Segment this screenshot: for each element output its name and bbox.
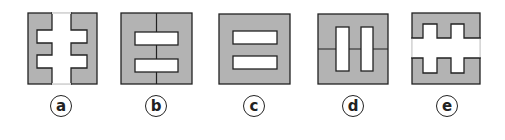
- label-d: d: [342, 95, 364, 117]
- label-b-text: b: [151, 99, 162, 114]
- label-e: e: [436, 95, 458, 117]
- figure-d: [318, 14, 388, 84]
- figure-a: [28, 13, 97, 84]
- label-c-text: c: [250, 99, 259, 114]
- label-a: a: [50, 95, 72, 117]
- figure-b: [121, 13, 192, 84]
- label-b: b: [145, 95, 167, 117]
- figures-canvas: [0, 0, 505, 140]
- label-e-text: e: [442, 99, 452, 114]
- figure-c: [219, 14, 290, 84]
- label-d-text: d: [348, 99, 359, 114]
- label-a-text: a: [56, 99, 66, 114]
- figure-e: [412, 13, 480, 84]
- label-c: c: [243, 95, 265, 117]
